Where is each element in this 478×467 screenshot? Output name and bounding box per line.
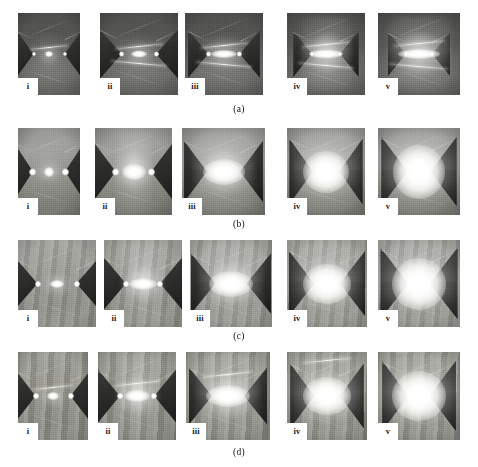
photo-panel: iii	[190, 240, 272, 327]
panel-label: iv	[287, 310, 307, 327]
photo-panel: ii	[104, 240, 182, 327]
panel-label: i	[18, 78, 38, 95]
photo-panel: v	[378, 128, 460, 215]
photo-panel: v	[378, 13, 460, 95]
panel-label: iii	[185, 78, 205, 95]
arc-core	[206, 385, 250, 407]
panel-label: v	[378, 78, 398, 95]
panel-label: v	[378, 310, 398, 327]
left-tip-spot	[33, 393, 39, 399]
row-caption: (c)	[0, 331, 478, 341]
arc-core	[47, 392, 59, 400]
arc-core	[209, 271, 253, 297]
photo-panel: iv	[287, 13, 365, 95]
panel-label: ii	[100, 78, 120, 95]
arc-core	[303, 377, 351, 415]
left-tip-spot	[404, 52, 408, 56]
figure-panel-grid: iiiiiiivv(a)iiiiiiivv(b)iiiiiiivv(c)iiii…	[0, 0, 478, 467]
panel-label: iii	[182, 198, 202, 215]
panel-label: iii	[186, 423, 206, 440]
panel-label: v	[378, 423, 398, 440]
arc-core	[44, 167, 54, 177]
left-tip-spot	[123, 281, 129, 287]
left-tip-spot	[119, 52, 124, 57]
row-caption: (b)	[0, 219, 478, 229]
photo-panel: i	[18, 128, 80, 215]
right-tip-spot	[430, 52, 434, 56]
photo-panel: iii	[185, 13, 263, 95]
right-tip-spot	[68, 393, 74, 399]
panel-label: iii	[190, 310, 210, 327]
panel-label: i	[18, 310, 38, 327]
panel-label: iv	[287, 78, 307, 95]
arc-core	[392, 371, 446, 421]
arc-core	[122, 164, 146, 180]
right-tip-spot	[157, 281, 163, 287]
row-caption: (d)	[0, 447, 478, 457]
arc-core	[45, 51, 53, 57]
photo-panel: i	[18, 352, 88, 440]
right-tip-spot	[237, 52, 242, 57]
arc-core	[203, 159, 245, 185]
arc-core	[303, 264, 351, 304]
arc-core	[303, 151, 349, 193]
right-tip-spot	[148, 168, 155, 175]
panel-label: i	[18, 423, 38, 440]
arc-core	[131, 51, 147, 58]
row-caption: (a)	[0, 104, 478, 114]
panel-label: ii	[104, 310, 124, 327]
photo-panel: iv	[287, 352, 367, 440]
left-tip-spot	[206, 52, 211, 57]
left-tip-spot	[32, 52, 36, 56]
left-tip-spot	[112, 168, 119, 175]
panel-label: iv	[287, 198, 307, 215]
arc-core	[211, 50, 237, 58]
right-electrode	[156, 29, 178, 78]
panel-label: i	[18, 198, 38, 215]
left-tip-spot	[117, 393, 123, 399]
panel-label: iv	[287, 423, 307, 440]
photo-panel: iv	[287, 240, 367, 327]
left-tip-spot	[310, 52, 314, 56]
right-tip-spot	[338, 52, 342, 56]
arc-core	[124, 390, 150, 402]
left-tip-spot	[35, 281, 41, 287]
photo-panel: ii	[100, 13, 178, 95]
right-tip-spot	[74, 281, 80, 287]
panel-label: v	[378, 198, 398, 215]
photo-panel: iii	[182, 128, 265, 215]
photo-panel: v	[378, 240, 460, 327]
panel-label: ii	[98, 423, 118, 440]
photo-panel: v	[378, 352, 460, 440]
arc-core	[50, 280, 64, 288]
arc-core	[129, 278, 157, 290]
right-tip-spot	[151, 393, 157, 399]
photo-panel: i	[18, 240, 96, 327]
photo-panel: iii	[186, 352, 270, 440]
photo-panel: iv	[287, 128, 365, 215]
photo-panel: ii	[95, 128, 172, 215]
right-tip-spot	[62, 168, 69, 175]
panel-label: ii	[95, 198, 115, 215]
right-tip-spot	[63, 52, 67, 56]
photo-panel: ii	[98, 352, 176, 440]
left-tip-spot	[29, 168, 36, 175]
photo-panel: i	[18, 13, 80, 95]
right-tip-spot	[154, 52, 159, 57]
